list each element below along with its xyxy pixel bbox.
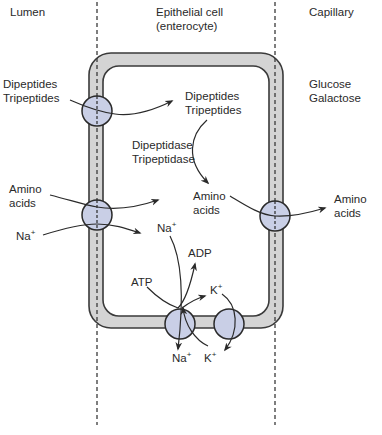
label-atp: ATP (131, 276, 153, 288)
label-capillary-amino: Amino (334, 193, 367, 205)
label-lumen-sodium: Na+ (16, 228, 36, 242)
label-out-sodium: Na+ (172, 350, 192, 364)
label-cell-amino: Amino (193, 190, 226, 202)
region-label-capillary: Capillary (309, 6, 354, 18)
label-tripeptidase: Tripeptidase (132, 153, 195, 165)
label-cell-tripeptides: Tripeptides (185, 104, 242, 116)
region-label-lumen: Lumen (10, 6, 45, 18)
label-out-potassium: K+ (204, 350, 217, 364)
label-adp: ADP (188, 247, 212, 259)
label-cell-dipeptides: Dipeptides (185, 90, 240, 102)
label-lumen-acids: acids (9, 197, 36, 209)
peptide-transporter (82, 96, 112, 126)
label-capillary-acids: acids (334, 207, 361, 219)
label-dipeptidase: Dipeptidase (132, 139, 193, 151)
enterocyte-transport-diagram: Lumen Epithelial cell (enterocyte) Capil… (0, 0, 382, 435)
label-lumen-amino: Amino (9, 183, 42, 195)
region-label-enterocyte: (enterocyte) (156, 20, 218, 32)
region-label-epithelial-cell: Epithelial cell (156, 6, 223, 18)
potassium-channel (214, 309, 244, 339)
label-glucose: Glucose (309, 78, 351, 90)
label-cell-acids: acids (193, 204, 220, 216)
label-lumen-tripeptides: Tripeptides (3, 92, 60, 104)
label-lumen-dipeptides: Dipeptides (3, 78, 58, 90)
label-galactose: Galactose (309, 92, 361, 104)
